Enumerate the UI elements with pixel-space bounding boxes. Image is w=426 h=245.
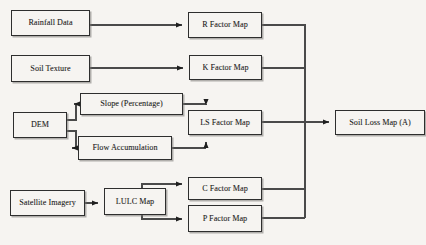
node-c-factor-map[interactable]: C Factor Map bbox=[188, 177, 262, 200]
node-label-soil-texture: Soil Texture bbox=[30, 65, 70, 73]
node-label-flow-accumulation: Flow Accumulation bbox=[92, 144, 157, 152]
node-label-ls-factor-map: LS Factor Map bbox=[200, 119, 250, 127]
node-label-dem: DEM bbox=[31, 121, 49, 129]
node-label-p-factor-map: P Factor Map bbox=[203, 215, 247, 223]
node-label-soil-loss-map: Soil Loss Map (A) bbox=[349, 119, 410, 127]
node-label-lulc-map: LULC Map bbox=[116, 198, 154, 206]
node-dem[interactable]: DEM bbox=[13, 112, 67, 138]
node-label-satellite-imagery: Satellite Imagery bbox=[19, 199, 76, 207]
node-label-r-factor-map: R Factor Map bbox=[202, 21, 248, 29]
node-label-c-factor-map: C Factor Map bbox=[202, 185, 248, 193]
node-k-factor-map[interactable]: K Factor Map bbox=[189, 55, 262, 80]
node-ls-factor-map[interactable]: LS Factor Map bbox=[188, 110, 262, 135]
node-satellite-imagery[interactable]: Satellite Imagery bbox=[10, 190, 85, 216]
edge-lulc-to-p-factor bbox=[142, 215, 182, 219]
node-flow-accumulation[interactable]: Flow Accumulation bbox=[78, 136, 172, 160]
node-r-factor-map[interactable]: R Factor Map bbox=[188, 12, 262, 38]
node-rainfall-data[interactable]: Rainfall Data bbox=[11, 10, 90, 36]
edge-dem-to-flow-accumulation bbox=[67, 131, 76, 148]
node-lulc-map[interactable]: LULC Map bbox=[104, 188, 166, 215]
node-label-k-factor-map: K Factor Map bbox=[202, 64, 248, 72]
edge-r-factor-to-bus bbox=[262, 25, 305, 218]
flowchart-diagram: Rainfall Data Soil Texture DEM Satellite… bbox=[0, 0, 426, 245]
node-p-factor-map[interactable]: P Factor Map bbox=[188, 205, 262, 232]
edge-dem-to-slope bbox=[67, 104, 76, 120]
node-soil-loss-map[interactable]: Soil Loss Map (A) bbox=[335, 110, 425, 135]
node-slope-percentage[interactable]: Slope (Percentage) bbox=[80, 93, 183, 115]
node-soil-texture[interactable]: Soil Texture bbox=[11, 55, 90, 82]
node-label-rainfall-data: Rainfall Data bbox=[28, 19, 72, 27]
node-label-slope-percentage: Slope (Percentage) bbox=[100, 100, 162, 108]
